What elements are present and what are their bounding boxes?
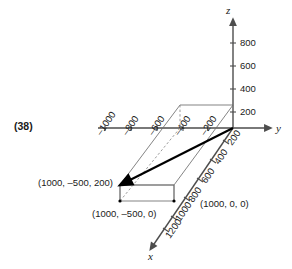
y-tick-label-neg1000: –1000 (94, 109, 118, 137)
y-tick-label-neg200: –200 (198, 114, 219, 138)
label-base-point: (1000, –500, 0) (92, 208, 156, 219)
z-tick-label-800: 800 (240, 37, 256, 48)
x-tick-label-600: 600 (199, 166, 217, 185)
dot-x-axis-point (172, 199, 175, 202)
dot-base-point (118, 199, 121, 202)
z-tick-label-600: 600 (240, 60, 256, 71)
x-tick-label-400: 400 (212, 147, 230, 166)
three-d-coordinate-diagram: z 200 400 600 800 y –1000 –800 –600 –400… (0, 0, 292, 269)
y-tick-label-neg800: –800 (120, 114, 141, 138)
x-axis-label: x (147, 250, 153, 262)
z-tick-label-400: 400 (240, 83, 256, 94)
y-axis-label: y (275, 122, 281, 134)
plane-side-edges (120, 185, 174, 201)
problem-number: (38) (14, 120, 33, 132)
label-vector-tip: (1000, –500, 200) (38, 177, 113, 188)
z-axis-label: z (225, 4, 231, 16)
base-rectangle (120, 185, 174, 201)
y-tick-label-neg400: –400 (172, 114, 193, 138)
label-x-axis-point: (1000, 0, 0) (200, 198, 249, 209)
z-tick-label-200: 200 (240, 106, 256, 117)
y-tick-label-neg600: –600 (146, 114, 167, 138)
